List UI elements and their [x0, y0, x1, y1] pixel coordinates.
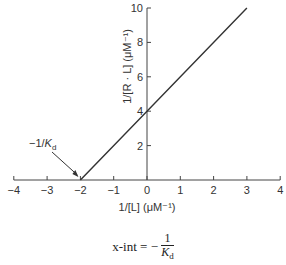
x-tick-label: 4: [277, 184, 283, 196]
x-tick-label: −2: [74, 184, 87, 196]
x-tick-label: −3: [41, 184, 54, 196]
x-tick-label: 1: [177, 184, 183, 196]
y-tick-label: 2: [137, 140, 143, 152]
x-axis-label: 1/[L] (μM⁻¹): [119, 201, 176, 213]
formula-lhs: x-int = −: [112, 239, 158, 254]
formula-fraction: 1 Kd: [161, 232, 174, 263]
x-tick-label: −1: [107, 184, 120, 196]
x-tick-label: −4: [8, 184, 21, 196]
x-intercept-formula: x-int = − 1 Kd: [0, 232, 286, 263]
formula-denominator: Kd: [161, 246, 174, 263]
chart: −4−3−2−1012342468101/[L] (μM⁻¹)1/[R · L]…: [0, 0, 286, 265]
x-tick-label: 3: [244, 184, 250, 196]
x-tick-label: 2: [211, 184, 217, 196]
formula-numerator: 1: [161, 232, 174, 246]
data-line: [80, 8, 247, 180]
x-tick-label: 0: [144, 184, 150, 196]
y-axis-label: 1/[R · L] (μM⁻¹): [121, 29, 133, 104]
formula-denominator-sub: d: [169, 251, 174, 261]
y-tick-label: 8: [137, 36, 143, 48]
y-tick-label: 10: [131, 2, 143, 14]
y-tick-label: 6: [137, 71, 143, 83]
annotation-arrow-line: [52, 152, 77, 175]
annotation-label: −1/Kd: [29, 137, 56, 152]
